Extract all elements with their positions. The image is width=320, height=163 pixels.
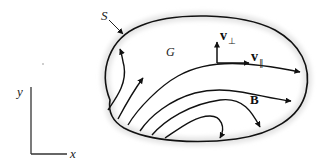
axis-label-y: y <box>15 84 23 99</box>
field-line-6 <box>165 116 223 138</box>
label-v-parallel-sub: ∥ <box>259 58 264 68</box>
label-v-parallel-main: v <box>251 49 258 64</box>
boundary-halo <box>105 16 307 142</box>
label-surface-s: S <box>101 8 108 23</box>
plasma-field-diagram: S G B v ⊥ v ∥ y x <box>0 0 320 163</box>
stray-dot <box>42 63 43 64</box>
label-field-b: B <box>250 92 259 107</box>
label-v-perp-sub: ⊥ <box>228 36 236 46</box>
coordinate-axes <box>31 87 67 154</box>
label-region-g: G <box>166 45 175 59</box>
axis-label-x: x <box>69 146 76 161</box>
label-v-perp: v ⊥ <box>220 28 236 46</box>
label-v-perp-main: v <box>220 28 227 43</box>
field-line-2 <box>118 78 143 119</box>
surface-pointer-line <box>109 20 123 34</box>
